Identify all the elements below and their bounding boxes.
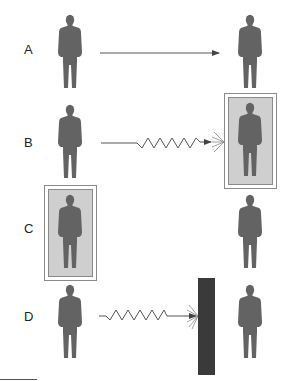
zigzag-arrow-d xyxy=(99,310,196,320)
person-target-c xyxy=(238,195,262,268)
diagram-canvas xyxy=(0,0,307,381)
person-source-d xyxy=(58,285,82,358)
row-a xyxy=(58,15,262,88)
zigzag-arrow-b xyxy=(101,138,211,148)
row-d xyxy=(58,278,262,375)
person-target-a xyxy=(238,15,262,88)
person-source-b xyxy=(58,105,82,178)
person-target-d xyxy=(238,285,262,358)
row-c xyxy=(45,186,263,281)
person-source-a xyxy=(58,15,82,88)
impact-burst-b xyxy=(212,132,224,152)
wall-barrier-d xyxy=(198,278,215,375)
impact-burst-d xyxy=(187,305,198,329)
row-b xyxy=(58,94,277,189)
